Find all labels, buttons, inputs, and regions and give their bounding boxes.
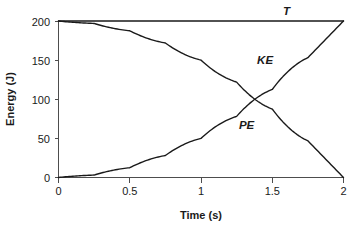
potential-energy-curve: [59, 21, 344, 178]
y-axis-title: Energy (J): [4, 72, 16, 126]
potential-energy-label: PE: [239, 119, 255, 131]
y-tick-label-50: 50: [38, 133, 50, 145]
y-tick-label-150: 150: [32, 55, 50, 67]
kinetic-energy-curve: [59, 21, 344, 178]
x-tick-label-0-5: 0.5: [122, 185, 137, 197]
y-tick-label-100: 100: [32, 94, 50, 106]
chart-svg: 0 50 100 150 200 0 0.5 1 1.5 2 Time (s) …: [0, 0, 355, 233]
y-tick-label-0: 0: [44, 172, 50, 184]
x-axis-title: Time (s): [180, 209, 222, 221]
x-axis-ticks: [59, 178, 344, 183]
x-tick-label-2: 2: [340, 185, 346, 197]
y-tick-label-200: 200: [32, 16, 50, 28]
y-axis-ticks: [55, 22, 59, 178]
x-tick-label-1: 1: [198, 185, 204, 197]
x-tick-label-1-5: 1.5: [265, 185, 280, 197]
total-energy-label: T: [283, 5, 291, 17]
energy-vs-time-chart: 0 50 100 150 200 0 0.5 1 1.5 2 Time (s) …: [0, 0, 355, 233]
kinetic-energy-label: KE: [257, 54, 273, 66]
x-tick-label-0: 0: [55, 185, 61, 197]
